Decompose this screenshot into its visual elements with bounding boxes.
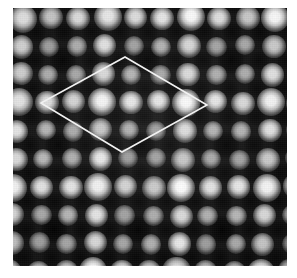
lattice-field <box>13 8 287 266</box>
stm-figure: Grayscale scanning-tunneling-microscopy … <box>0 0 297 278</box>
stm-scan-frame <box>13 8 287 266</box>
figure-alt-text: Grayscale scanning-tunneling-microscopy … <box>0 0 1 1</box>
